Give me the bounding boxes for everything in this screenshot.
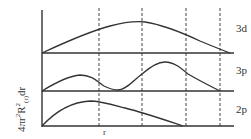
radial-distribution-figure: 4πr2R2(r)dr 3d 3p 2p r bbox=[0, 0, 251, 139]
label-3p: 3p bbox=[236, 64, 247, 76]
label-2p: 2p bbox=[236, 103, 247, 115]
curve-3p bbox=[42, 62, 220, 91]
y-axis-label: 4πr2R2(r)dr bbox=[10, 58, 26, 132]
x-axis-label: r bbox=[103, 127, 106, 137]
curve-2p bbox=[42, 101, 183, 126]
curve-3d bbox=[42, 22, 230, 53]
plot-canvas bbox=[0, 0, 251, 139]
dashed-reference-lines bbox=[99, 8, 220, 128]
label-3d: 3d bbox=[236, 22, 247, 34]
